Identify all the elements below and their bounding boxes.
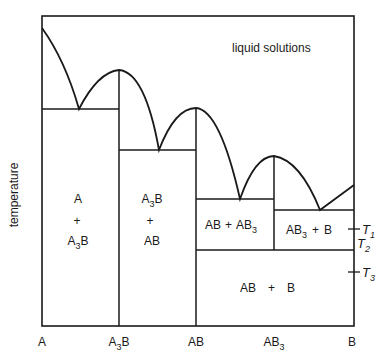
- region1-top-label: A: [74, 192, 82, 206]
- region2-bottom-label: AB: [144, 234, 160, 248]
- liquid-region-label: liquid solutions: [232, 41, 311, 55]
- region3-label: AB+AB3: [205, 218, 257, 235]
- region2-top-label: A3B: [141, 192, 162, 209]
- t3-label: T3: [362, 265, 375, 283]
- x-label-ab: AB: [188, 335, 204, 349]
- t2-label: T2: [357, 236, 370, 254]
- x-label-b: B: [348, 335, 356, 349]
- liquidus-curve: [42, 28, 354, 210]
- x-label-a3b: A3B: [108, 335, 129, 352]
- plot-frame: [42, 16, 354, 326]
- region1-bottom-label: A3B: [67, 234, 88, 251]
- phase-diagram: T1 T2 T3 liquid solutions A + A3B A3B + …: [0, 0, 390, 360]
- region1-plus: +: [73, 214, 80, 228]
- y-axis-label: temperature: [7, 162, 21, 227]
- region5-label: AB+B: [240, 281, 295, 295]
- region4-label: AB3+B: [286, 223, 332, 240]
- region2-plus: +: [146, 214, 153, 228]
- x-label-a: A: [38, 335, 46, 349]
- x-label-ab3: AB3: [263, 335, 284, 352]
